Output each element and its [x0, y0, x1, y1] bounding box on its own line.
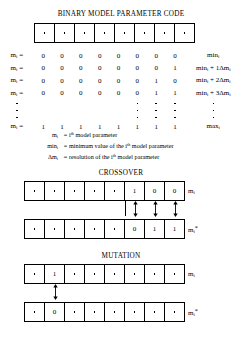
bit-table-ellipsis-row [0, 114, 242, 121]
crossover-child-cell-5: 0 [125, 220, 145, 238]
crossover-arrows [24, 200, 224, 218]
bit-value-5: 0 [128, 75, 147, 88]
crossover-child-label: mi* [188, 224, 198, 234]
bit-placeholder-dot-icon [74, 311, 76, 313]
ellipsis-bit-dot-icon [34, 100, 53, 107]
mutation-before-cell-5 [125, 265, 145, 283]
crossover-parent-cell-7: 0 [165, 182, 185, 200]
ellipsis-bit-dot-icon [71, 107, 90, 114]
crossover-swap-arrow-icon-1 [152, 201, 159, 217]
legend-equals-sign: = [62, 142, 69, 149]
crossover-child-cell-7: 1 [165, 220, 185, 238]
code-cell-2 [75, 24, 95, 42]
mutation-before-cell-3 [85, 265, 105, 283]
bit-value-6: 1 [147, 75, 166, 88]
mutation-before-cell-1: 1 [45, 265, 65, 283]
ellipsis-range-dot-icon [184, 114, 242, 121]
bit-placeholder-dot-icon [94, 311, 96, 313]
legend-description: ith model parameter [69, 131, 117, 138]
bit-value-1: 0 [53, 75, 72, 88]
bit-table-row: mi =00000010mini + 2Δmi [0, 75, 242, 88]
bit-value-0: 0 [34, 88, 53, 101]
row-range-value: mini + 2Δmi [184, 75, 242, 88]
code-cell-4 [115, 24, 135, 42]
bit-value-3: 0 [90, 75, 109, 88]
bit-value-4: 0 [109, 75, 128, 88]
bit-placeholder-dot-icon [154, 311, 156, 313]
bit-value-5: 0 [128, 50, 147, 63]
legend-entry-2: Δmi=resolution of the ith model paramete… [0, 153, 242, 162]
ellipsis-bit-dot-icon [128, 107, 147, 114]
ellipsis-bit-dot-icon [71, 100, 90, 107]
ellipsis-bit-dot-icon [53, 107, 72, 114]
bit-table-row: mi =00000000mini [0, 50, 242, 63]
bit-value-2: 0 [71, 88, 90, 101]
ellipsis-bit-dot-icon [53, 100, 72, 107]
bit-placeholder-dot-icon [44, 32, 46, 34]
bit-placeholder-dot-icon [94, 190, 96, 192]
mutation-after-label: mi* [188, 307, 198, 317]
crossover-child-cell-3 [85, 220, 105, 238]
bit-placeholder-dot-icon [54, 190, 56, 192]
mutation-before-label: mi [188, 270, 195, 278]
bit-value-2: 0 [71, 75, 90, 88]
legend-symbol: mi [0, 131, 62, 140]
bit-placeholder-dot-icon [34, 273, 36, 275]
crossover-child-cell-0 [25, 220, 45, 238]
ellipsis-bit-dot-icon [90, 114, 109, 121]
ellipsis-bit-dot-icon [147, 114, 166, 121]
bit-value-4: 0 [109, 50, 128, 63]
mutation-after-cell-2 [65, 303, 85, 321]
bit-value-1: 0 [53, 88, 72, 101]
bit-value-0: 0 [34, 75, 53, 88]
bit-placeholder-dot-icon [114, 228, 116, 230]
ellipsis-bit-dot-icon [166, 114, 185, 121]
binary-code-title: BINARY MODEL PARAMETER CODE [0, 10, 242, 18]
ellipsis-bit-dot-icon [90, 107, 109, 114]
code-strip [34, 23, 195, 43]
bit-value-5: 0 [128, 63, 147, 76]
crossover-child-cell-6: 1 [145, 220, 165, 238]
bit-placeholder-dot-icon [114, 190, 116, 192]
bit-placeholder-dot-icon [74, 190, 76, 192]
bit-value-4: 0 [109, 63, 128, 76]
mutation-after-strip: 0 [24, 302, 185, 322]
legend-entry-0: mi=ith model parameter [0, 131, 242, 140]
crossover-title: CROSSOVER [0, 169, 242, 177]
ellipsis-label-dot-icon [0, 114, 34, 121]
ellipsis-bit-dot-icon [166, 107, 185, 114]
mutation-before-row: 1mi [24, 264, 195, 284]
mutation-after-cell-4 [105, 303, 125, 321]
crossover-parent-cell-6: 0 [145, 182, 165, 200]
mutation-arrows [24, 283, 224, 301]
mutation-before-cell-4 [105, 265, 125, 283]
bit-value-3: 0 [90, 50, 109, 63]
mutation-after-cell-7 [165, 303, 185, 321]
code-cell-7 [175, 24, 195, 42]
bit-placeholder-dot-icon [64, 32, 66, 34]
mutation-title: MUTATION [0, 252, 242, 260]
ellipsis-bit-dot-icon [109, 107, 128, 114]
mutation-after-cell-1: 0 [45, 303, 65, 321]
mutation-after-cell-3 [85, 303, 105, 321]
bit-placeholder-dot-icon [174, 273, 176, 275]
ellipsis-bit-dot-icon [53, 114, 72, 121]
row-parameter-label: mi = [0, 75, 34, 88]
mutation-before-cell-0 [25, 265, 45, 283]
bit-placeholder-dot-icon [74, 228, 76, 230]
crossover-crossover-point-divider [125, 201, 126, 216]
bit-value-3: 0 [90, 88, 109, 101]
ellipsis-bit-dot-icon [109, 114, 128, 121]
crossover-parent-label: mi [188, 187, 195, 195]
binary-code-table: mi =00000000minimi =00000001mini + 1Δmim… [0, 50, 242, 134]
bit-value-2: 0 [71, 50, 90, 63]
bit-value-6: 1 [147, 88, 166, 101]
legend-symbol: Δmi [0, 153, 62, 162]
ellipsis-label-dot-icon [0, 107, 34, 114]
bit-value-1: 0 [53, 63, 72, 76]
mutation-before-cell-2 [65, 265, 85, 283]
ellipsis-range-dot-icon [184, 107, 242, 114]
crossover-parent-cell-2 [65, 182, 85, 200]
mutation-after-row: 0mi* [24, 302, 198, 322]
mutation-before-cell-6 [145, 265, 165, 283]
